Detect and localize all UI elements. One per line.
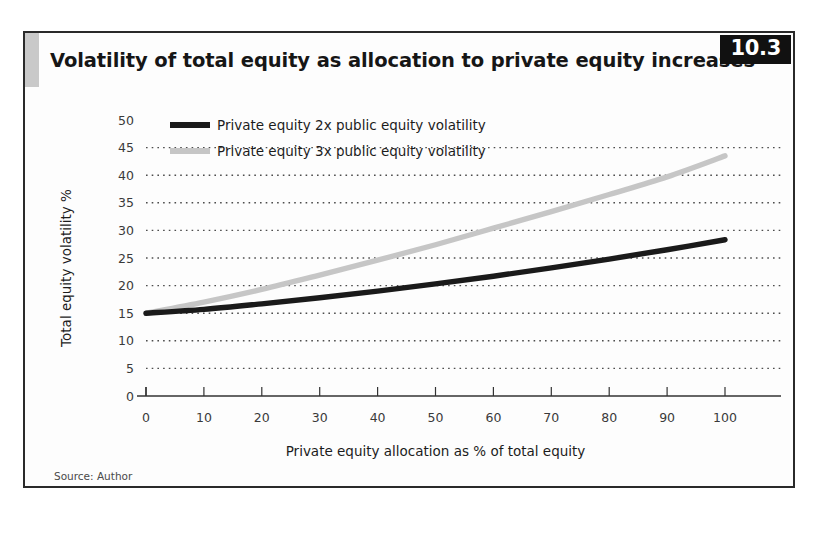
x-tick-label: 100 — [713, 410, 737, 425]
x-axis-title: Private equity allocation as % of total … — [286, 443, 586, 459]
y-tick-label: 45 — [118, 140, 134, 155]
y-tick-label: 10 — [118, 333, 134, 348]
y-tick-label: 30 — [118, 223, 134, 238]
title-band: Volatility of total equity as allocation… — [25, 33, 793, 87]
x-tick-label: 10 — [196, 410, 212, 425]
x-tick-label: 50 — [428, 410, 444, 425]
page-title: Volatility of total equity as allocation… — [39, 49, 793, 72]
series-line — [146, 240, 725, 313]
x-tick-label: 90 — [659, 410, 675, 425]
legend-label: Private equity 2x public equity volatili… — [217, 117, 486, 133]
figure-container: Volatility of total equity as allocation… — [23, 31, 795, 488]
x-tick-label: 0 — [142, 410, 150, 425]
legend-label: Private equity 3x public equity volatili… — [217, 143, 486, 159]
series-line — [146, 156, 725, 313]
plot-area: 0510152025303540455001020304050607080901… — [25, 87, 797, 488]
y-tick-label: 15 — [118, 306, 134, 321]
y-tick-label: 40 — [118, 168, 134, 183]
x-tick-label: 20 — [254, 410, 270, 425]
x-tick-label: 70 — [543, 410, 559, 425]
x-tick-label: 40 — [370, 410, 386, 425]
chart-legend: Private equity 2x public equity volatili… — [170, 117, 486, 159]
x-axis-ticks: 0102030405060708090100 — [142, 387, 737, 425]
y-axis-ticks: 05101520253035404550 — [118, 113, 134, 404]
figure-number-badge: 10.3 — [720, 35, 791, 64]
y-tick-label: 20 — [118, 278, 134, 293]
x-tick-label: 80 — [601, 410, 617, 425]
y-tick-label: 50 — [118, 113, 134, 128]
x-tick-label: 30 — [312, 410, 328, 425]
x-tick-label: 60 — [485, 410, 501, 425]
title-accent-bar — [25, 33, 39, 87]
y-axis-title: Total equity volatility % — [58, 189, 74, 348]
y-tick-label: 5 — [126, 361, 134, 376]
y-tick-label: 35 — [118, 195, 134, 210]
y-tick-label: 25 — [118, 251, 134, 266]
chart-svg: 0510152025303540455001020304050607080901… — [25, 87, 797, 488]
y-tick-label: 0 — [126, 389, 134, 404]
gridlines — [146, 148, 781, 369]
source-note: Source: Author — [54, 470, 133, 482]
data-series-group — [146, 156, 725, 313]
